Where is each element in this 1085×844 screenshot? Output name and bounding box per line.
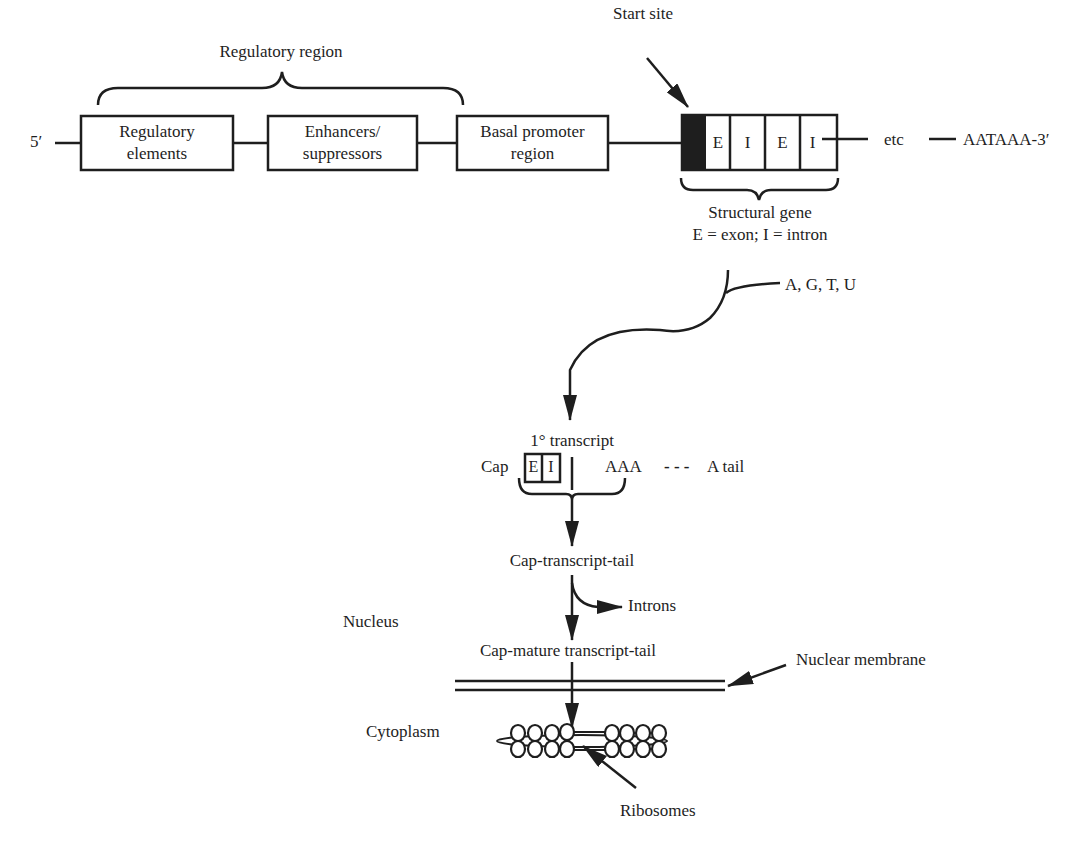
transcription-arrow (570, 270, 728, 420)
gene-segment-exon-2: E (765, 115, 800, 170)
enhancers-line1: Enhancers/ (305, 121, 381, 143)
transcript-exon: E (525, 456, 542, 478)
ribosomes-label: Ribosomes (620, 801, 696, 821)
transcript-intron: I (542, 456, 560, 478)
etc-label: etc (884, 130, 904, 150)
basal-promoter-label: Basal promoter region (457, 116, 608, 170)
cap-mature-transcript-tail-label: Cap-mature transcript-tail (480, 641, 656, 661)
cap-transcript-tail-label: Cap-transcript-tail (510, 551, 635, 571)
start-site-arrow (647, 58, 688, 107)
regulatory-elements-line2: elements (127, 143, 187, 165)
enhancers-suppressors-label: Enhancers/ suppressors (268, 116, 417, 170)
five-prime-label: 5′ (30, 132, 42, 152)
exon-intron-legend: E = exon; I = intron (693, 225, 828, 245)
basal-promoter-line1: Basal promoter (480, 121, 584, 143)
start-site-block (682, 115, 706, 170)
regulatory-elements-label: Regulatory elements (81, 116, 233, 170)
three-prime-label: AATAAA-3′ (963, 130, 1049, 150)
gene-segment-exon-1: E (706, 115, 730, 170)
structural-gene-label: Structural gene (708, 203, 811, 223)
nucleus-label: Nucleus (343, 612, 399, 632)
poly-a-label: AAA (605, 457, 642, 477)
cap-label: Cap (481, 457, 508, 477)
regulatory-region-brace (98, 72, 463, 105)
nuclear-membrane-arrow (728, 665, 786, 686)
cytoplasm-label: Cytoplasm (366, 722, 440, 742)
introns-arrow (572, 583, 622, 607)
gene-segment-intron-1: I (730, 115, 765, 170)
structural-gene-brace (681, 178, 838, 200)
ribosomes (511, 724, 666, 757)
enhancers-line2: suppressors (303, 143, 382, 165)
primary-transcript-label: 1° transcript (530, 431, 614, 451)
nuclear-membrane-label: Nuclear membrane (796, 650, 926, 670)
a-tail-label: A tail (707, 457, 744, 477)
nucleotide-branch (726, 283, 780, 293)
a-tail-dashes: - - - (664, 457, 689, 477)
gene-segment-intron-2: I (800, 115, 825, 170)
nucleotides-label: A, G, T, U (785, 275, 856, 295)
regulatory-region-label: Regulatory region (219, 42, 342, 62)
basal-promoter-line2: region (511, 143, 554, 165)
start-site-label: Start site (613, 4, 673, 24)
regulatory-elements-line1: Regulatory (119, 121, 195, 143)
introns-label: Introns (628, 596, 676, 616)
gene-expression-diagram: Regulatory region 5′ Regulatory elements… (0, 0, 1085, 844)
